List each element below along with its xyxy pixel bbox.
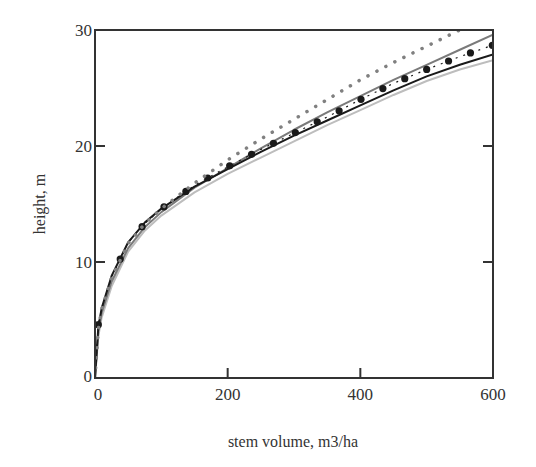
x-tick-label: 200: [215, 385, 241, 404]
plot-frame: [95, 30, 493, 378]
series-line: [95, 54, 493, 378]
data-marker: [270, 140, 277, 147]
data-marker: [226, 162, 233, 169]
y-tick-label: 30: [75, 21, 92, 40]
data-marker: [292, 129, 299, 136]
x-tick-label: 400: [348, 385, 374, 404]
chart: 02004006000102030 stem volume, m3/ha hei…: [0, 0, 536, 467]
x-tick-label: 600: [480, 385, 506, 404]
y-tick-label: 10: [75, 253, 92, 272]
series-layer: [95, 30, 496, 378]
series-line: [95, 35, 493, 378]
data-marker: [467, 49, 474, 56]
series-line: [95, 45, 493, 378]
ticks-layer: 02004006000102030: [75, 21, 506, 404]
data-marker: [248, 151, 255, 158]
y-tick-label: 20: [75, 137, 92, 156]
data-marker: [314, 118, 321, 125]
x-axis-title: stem volume, m3/ha: [228, 433, 358, 450]
y-axis-title: height, m: [31, 173, 49, 234]
y-tick-label: 0: [84, 367, 93, 386]
x-tick-label: 0: [94, 385, 103, 404]
